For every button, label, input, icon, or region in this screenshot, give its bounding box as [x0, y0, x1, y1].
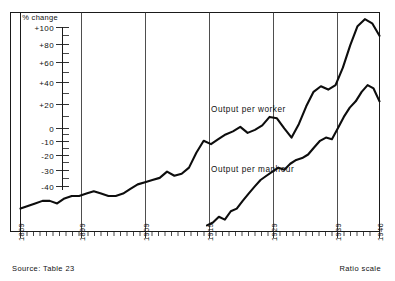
series-label-output-per-manhour: Output per manhour [211, 165, 294, 174]
x-tick-label-1939: 1939 [334, 223, 343, 241]
x-tick-label-1909: 1909 [142, 223, 151, 241]
y-tick-label-0: 0 [49, 125, 54, 134]
y-tick-label-n30: -30 [41, 167, 54, 176]
chart-figure: % change +100 +80 +60 +40 +20 0 -10 -20 … [0, 0, 395, 281]
y-tick-label-80: +80 [39, 41, 54, 50]
series-line-output-per-worker [21, 19, 380, 208]
y-tick-label-n40: -40 [41, 183, 54, 192]
chart-svg: % change +100 +80 +60 +40 +20 0 -10 -20 … [0, 0, 395, 281]
series-label-output-per-worker: Output per worker [211, 105, 286, 114]
y-tick-label-100: +100 [34, 24, 54, 33]
y-axis-minor-ticks [63, 36, 70, 179]
x-tick-label-1899: 1899 [78, 223, 87, 241]
x-axis-ticks [21, 232, 380, 239]
x-tick-label-1869: 1869 [17, 223, 26, 241]
y-tick-label-40: +40 [39, 79, 54, 88]
ratio-scale-note: Ratio scale [339, 264, 381, 273]
x-tick-label-1946: 1946 [376, 223, 385, 241]
y-tick-label-n10: -10 [41, 138, 54, 147]
source-note: Source: Table 23 [12, 264, 75, 273]
x-tick-label-1929: 1929 [270, 223, 279, 241]
y-tick-label-n20: -20 [41, 152, 54, 161]
y-tick-label-20: +20 [39, 101, 54, 110]
y-tick-label-60: +60 [39, 59, 54, 68]
y-axis-title: % change [22, 13, 58, 22]
